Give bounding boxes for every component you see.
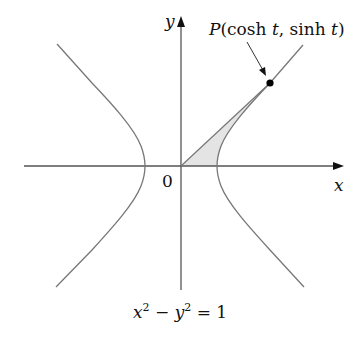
hyperbola-figure: y x 0 P(cosh t, sinh t) x2 − y2 = 1 bbox=[0, 0, 360, 344]
y-axis-arrow-icon bbox=[177, 16, 185, 27]
x-axis-label: x bbox=[334, 175, 344, 195]
pointer-line bbox=[247, 42, 264, 72]
point-p-coords: (cosh t, sinh t) bbox=[220, 19, 344, 39]
y-axis-label: y bbox=[164, 11, 175, 31]
origin-label: 0 bbox=[162, 171, 173, 191]
equation-label: x2 − y2 = 1 bbox=[133, 301, 227, 322]
pointer-arrow-icon bbox=[259, 67, 266, 76]
point-p-label: P(cosh t, sinh t) bbox=[208, 19, 345, 39]
point-p bbox=[266, 79, 273, 86]
x-axis-arrow-icon bbox=[333, 162, 344, 170]
point-p-name: P bbox=[208, 19, 221, 39]
ray-to-p bbox=[181, 83, 270, 166]
